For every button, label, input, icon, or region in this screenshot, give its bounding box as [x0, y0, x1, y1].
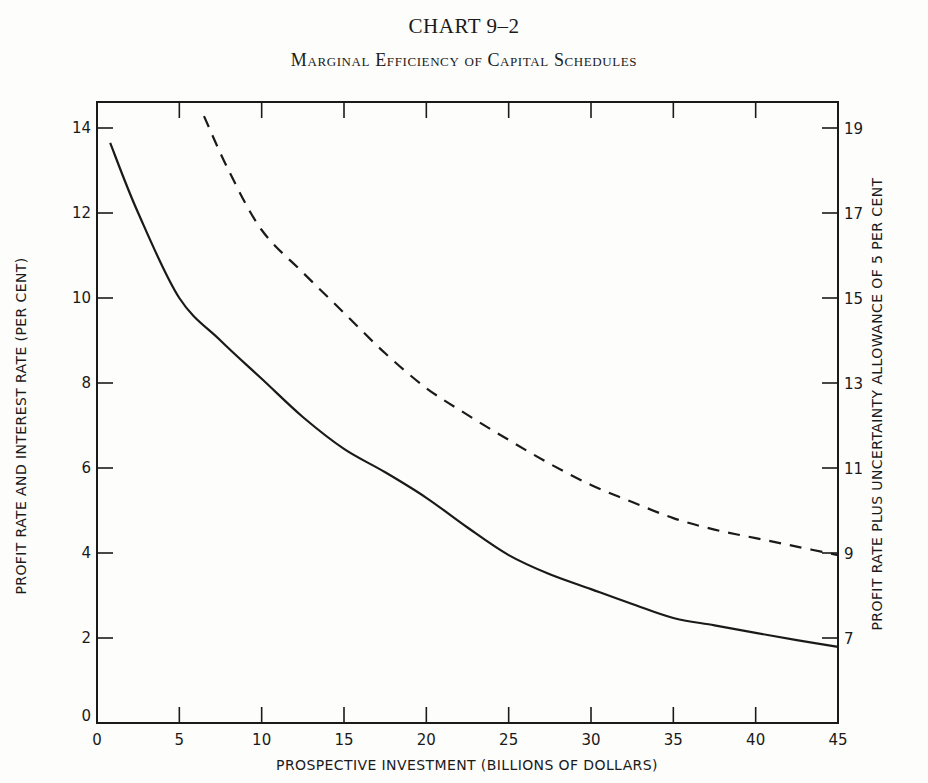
x-tick-label: 0	[92, 731, 102, 749]
x-tick-label: 20	[417, 731, 436, 749]
y-tick-label: 12	[72, 204, 91, 222]
y2-tick-label: 15	[844, 290, 863, 308]
y-tick-label: 0	[81, 707, 91, 725]
x-tick-label: 15	[334, 731, 353, 749]
x-tick-label: 35	[664, 731, 683, 749]
y-tick-label: 10	[72, 289, 91, 307]
y-tick-label: 8	[81, 374, 91, 392]
solid-line-profit-rate	[110, 143, 838, 647]
y2-tick-label: 19	[844, 120, 863, 138]
x-tick-label: 25	[499, 731, 518, 749]
y-tick-label: 2	[81, 629, 91, 647]
x-tick-label: 45	[828, 731, 847, 749]
dashed-line-uncertainty-allowance	[204, 116, 838, 555]
axis-ticks: 0510152025303540450246810121479111315171…	[72, 102, 863, 749]
y2-tick-label: 17	[844, 205, 863, 223]
y2-tick-label: 7	[844, 630, 854, 648]
x-tick-label: 5	[175, 731, 185, 749]
y-tick-label: 14	[72, 119, 91, 137]
y2-tick-label: 11	[844, 460, 863, 478]
x-axis-label: PROSPECTIVE INVESTMENT (BILLIONS OF DOLL…	[276, 757, 658, 773]
data-series	[110, 116, 838, 647]
y-tick-label: 4	[81, 544, 91, 562]
plot-border	[97, 102, 838, 723]
x-tick-label: 10	[252, 731, 271, 749]
x-tick-label: 40	[746, 731, 765, 749]
plot-frame	[97, 102, 838, 723]
x-tick-label: 30	[581, 731, 600, 749]
y2-tick-label: 13	[844, 375, 863, 393]
y2-tick-label: 9	[844, 545, 854, 563]
y2-axis-label: PROFIT RATE PLUS UNCERTAINTY ALLOWANCE O…	[869, 177, 885, 630]
y-axis-label: PROFIT RATE AND INTEREST RATE (PER CENT)	[13, 257, 29, 594]
line-chart: 0510152025303540450246810121479111315171…	[0, 0, 928, 783]
y-tick-label: 6	[81, 459, 91, 477]
